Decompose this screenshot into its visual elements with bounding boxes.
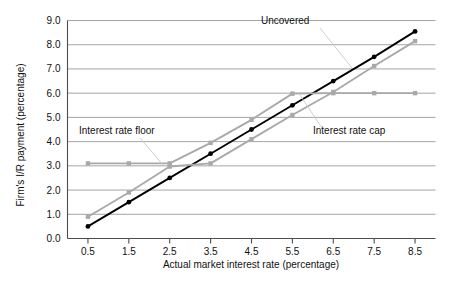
data-point — [86, 224, 91, 229]
y-tick-label: 9.0 — [47, 15, 61, 26]
data-point — [290, 91, 294, 95]
data-point — [127, 161, 131, 165]
data-point — [127, 190, 131, 194]
data-point — [413, 91, 417, 95]
data-point — [331, 79, 336, 84]
x-tick-label: 5.5 — [285, 246, 299, 257]
data-point — [413, 29, 418, 34]
x-axis-tick-labels: 0.51.52.53.54.55.56.57.58.5 — [81, 246, 422, 257]
data-point — [86, 161, 90, 165]
data-point — [167, 176, 172, 181]
x-axis-title: Actual market interest rate (percentage) — [163, 259, 339, 270]
y-axis-title: Firm's I/R payment (percentage) — [15, 63, 26, 206]
y-tick-label: 8.0 — [47, 39, 61, 50]
data-point — [372, 54, 377, 59]
x-tick-label: 3.5 — [204, 246, 218, 257]
x-tick-label: 6.5 — [326, 246, 340, 257]
data-point — [331, 90, 335, 94]
y-tick-label: 4.0 — [47, 136, 61, 147]
data-point — [290, 113, 294, 117]
x-tick-label: 1.5 — [122, 246, 136, 257]
y-tick-label: 5.0 — [47, 112, 61, 123]
data-point — [208, 151, 213, 156]
x-tick-label: 0.5 — [81, 246, 95, 257]
data-point — [168, 164, 172, 168]
data-point — [413, 39, 417, 43]
data-point — [208, 141, 212, 145]
annotation-label-uncovered: Uncovered — [261, 15, 309, 26]
y-tick-label: 6.0 — [47, 88, 61, 99]
y-tick-label: 7.0 — [47, 63, 61, 74]
annotation-label-interest-rate-cap: Interest rate cap — [313, 125, 386, 136]
data-point — [208, 161, 212, 165]
x-tick-label: 4.5 — [245, 246, 259, 257]
y-tick-label: 2.0 — [47, 185, 61, 196]
y-tick-label: 3.0 — [47, 160, 61, 171]
interest-rate-payment-chart: 0.51.52.53.54.55.56.57.58.5 0.01.02.03.0… — [0, 0, 457, 291]
x-tick-label: 2.5 — [163, 246, 177, 257]
y-tick-label: 1.0 — [47, 209, 61, 220]
data-point — [249, 118, 253, 122]
plot-background — [0, 0, 457, 291]
x-tick-label: 7.5 — [367, 246, 381, 257]
annotation-label-interest-rate-floor: Interest rate floor — [79, 125, 155, 136]
data-point — [290, 103, 295, 108]
data-point — [372, 91, 376, 95]
y-tick-label: 0.0 — [47, 233, 61, 244]
data-point — [249, 127, 254, 132]
data-point — [249, 137, 253, 141]
chart-container: 0.51.52.53.54.55.56.57.58.5 0.01.02.03.0… — [0, 0, 457, 291]
data-point — [126, 200, 131, 205]
data-point — [372, 64, 376, 68]
data-point — [86, 215, 90, 219]
x-tick-label: 8.5 — [408, 246, 422, 257]
